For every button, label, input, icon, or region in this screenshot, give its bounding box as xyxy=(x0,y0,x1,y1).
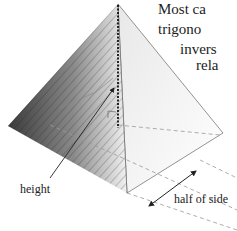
dashed-extension-2 xyxy=(200,160,237,178)
body-text-line-1: Most ca xyxy=(158,2,206,17)
body-text-line-2: trigono xyxy=(158,22,201,37)
half-side-label: half of side xyxy=(174,192,228,207)
height-label: height xyxy=(20,182,50,197)
pyramid-steps-texture xyxy=(8,4,127,193)
body-text-line-4: rela xyxy=(196,58,218,73)
body-text-line-3: invers xyxy=(180,42,217,57)
